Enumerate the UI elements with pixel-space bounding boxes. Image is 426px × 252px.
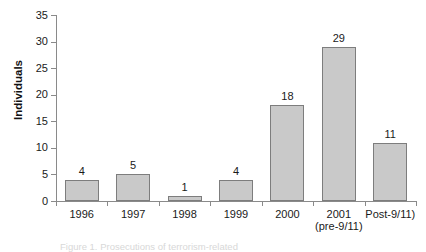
x-category-label-line1: 1996 (69, 208, 93, 220)
x-tick-mark (365, 201, 366, 206)
x-axis-line (56, 201, 416, 202)
figure-caption: Figure 1. Prosecutions of terrorism-rela… (60, 241, 390, 252)
y-tick-mark (51, 68, 56, 69)
bar (219, 180, 253, 201)
bar-value-label: 5 (113, 160, 153, 171)
y-tick-mark (51, 148, 56, 149)
bar-value-label: 29 (319, 33, 359, 44)
x-category-label-line2: (pre-9/11) (299, 220, 379, 232)
bar (168, 196, 202, 201)
x-category-label-line1: 1997 (121, 208, 145, 220)
x-category-label-line1: 1998 (172, 208, 196, 220)
x-tick-mark (262, 201, 263, 206)
y-tick-label-text: 0 (26, 196, 48, 207)
y-tick-mark (51, 121, 56, 122)
x-tick-mark (313, 201, 314, 206)
y-tick-label: 15 (0, 116, 48, 127)
y-tick-label: 25 (0, 63, 48, 74)
bar (322, 47, 356, 201)
y-tick-label-text: 20 (26, 89, 48, 100)
bar-value-label: 4 (62, 166, 102, 177)
y-tick-label-text: 15 (26, 116, 48, 127)
bar-value-label: 11 (370, 129, 410, 140)
y-tick-label-text: 35 (26, 10, 48, 21)
bar-value-label: 4 (216, 166, 256, 177)
y-tick-label-text: 25 (26, 63, 48, 74)
bar (270, 105, 304, 201)
x-category-label-line1: Post-9/11) (365, 208, 415, 220)
x-category-label-line1: 2001 (327, 208, 351, 220)
y-tick-label: 10 (0, 142, 48, 153)
y-tick-label: 0 (0, 196, 48, 207)
y-tick-label-text: 30 (26, 36, 48, 47)
y-tick-label-text: 10 (26, 142, 48, 153)
bar (116, 174, 150, 201)
y-tick-mark (51, 15, 56, 16)
bar-value-label: 1 (165, 182, 205, 193)
y-tick-label: 5 (0, 169, 48, 180)
x-tick-mark (56, 201, 57, 206)
x-category-label-line1: 2000 (275, 208, 299, 220)
bar (373, 143, 407, 201)
y-tick-mark (51, 95, 56, 96)
x-tick-mark (416, 201, 417, 206)
bar (65, 180, 99, 201)
y-tick-mark (51, 174, 56, 175)
x-category-label: Post-9/11) (350, 208, 426, 220)
x-tick-mark (107, 201, 108, 206)
y-tick-label: 35 (0, 10, 48, 21)
y-axis-line (56, 15, 57, 202)
bar-value-label: 18 (267, 91, 307, 102)
y-tick-label-text: 5 (26, 169, 48, 180)
x-tick-mark (210, 201, 211, 206)
x-category-label-line1: 1999 (224, 208, 248, 220)
y-tick-label: 20 (0, 89, 48, 100)
y-tick-label: 30 (0, 36, 48, 47)
x-tick-mark (159, 201, 160, 206)
y-tick-mark (51, 42, 56, 43)
